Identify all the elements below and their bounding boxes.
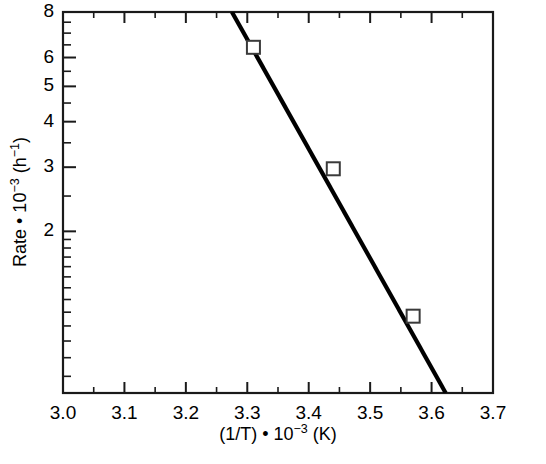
x-axis-title-base: (1/T) • 10 (219, 424, 293, 444)
y-axis-title-unit-close: ) (10, 137, 30, 143)
data-point-marker (247, 41, 260, 54)
chart-svg: 3.03.13.23.33.43.53.63.7 234568 (1/T) • … (0, 0, 546, 464)
y-axis-title-base: Rate • 10 (10, 193, 30, 267)
x-tick-label: 3.1 (111, 402, 137, 423)
y-axis-title-exponent-2: −1 (8, 143, 22, 157)
y-axis-title-unit: (h (10, 157, 30, 178)
x-axis-title-exponent: −3 (294, 422, 308, 436)
plot-frame (63, 12, 493, 393)
arrhenius-plot-figure: 3.03.13.23.33.43.53.63.7 234568 (1/T) • … (0, 0, 546, 464)
data-point-marker (327, 162, 340, 175)
y-axis-ticks (63, 12, 76, 376)
svg-text:(1/T) • 10−3 (K): (1/T) • 10−3 (K) (219, 422, 337, 444)
x-tick-label: 3.5 (357, 402, 383, 423)
x-axis-title: (1/T) • 10−3 (K) (219, 422, 337, 444)
y-tick-label: 2 (43, 219, 54, 240)
x-tick-label: 3.0 (50, 402, 76, 423)
y-tick-label: 6 (43, 46, 54, 67)
data-point-marker (407, 310, 420, 323)
y-axis-title: Rate • 10−3 (h−1) (8, 137, 30, 267)
x-tick-label: 3.7 (480, 402, 506, 423)
x-tick-label-group: 3.03.13.23.33.43.53.63.7 (50, 402, 506, 423)
x-tick-label: 3.4 (296, 402, 323, 423)
axes-border (63, 12, 493, 393)
y-tick-label: 4 (43, 110, 54, 131)
x-tick-label: 3.6 (418, 402, 444, 423)
data-series-group (232, 12, 446, 393)
x-tick-label: 3.2 (173, 402, 199, 423)
y-tick-label: 5 (43, 74, 54, 95)
x-axis-title-unit: (K) (308, 424, 337, 444)
y-tick-label: 8 (43, 0, 54, 21)
y-tick-label: 3 (43, 155, 54, 176)
fit-line (232, 12, 446, 393)
x-axis-ticks (63, 12, 493, 393)
y-tick-label-group: 234568 (43, 0, 54, 240)
y-axis-title-exponent: −3 (8, 178, 22, 192)
svg-text:Rate • 10−3 (h−1): Rate • 10−3 (h−1) (8, 137, 30, 267)
x-tick-label: 3.3 (234, 402, 260, 423)
